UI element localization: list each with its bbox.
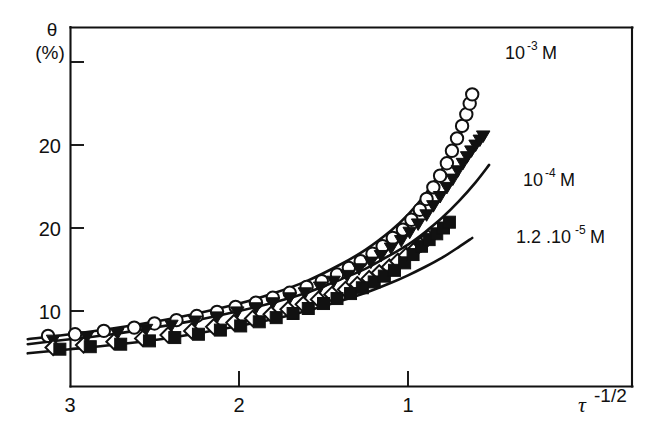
open-circle-point	[446, 145, 458, 157]
curve-label-10-4-sup: -4	[545, 166, 556, 180]
x-tick-label-1: 1	[402, 394, 413, 416]
x-axis-title: τ -1/2	[578, 385, 627, 417]
filled-square-point	[302, 303, 314, 315]
filled-square-point	[356, 282, 368, 294]
filled-square-point	[143, 335, 155, 347]
curve-annotation-10-3: 10 -3 M	[505, 39, 557, 63]
filled-square-point	[318, 298, 330, 310]
chart-plot-area: 20 20 10 10 3 2 1 θ (%) τ -1/2 10 -3 M 1…	[0, 0, 664, 428]
x-axis-ticks	[239, 371, 408, 386]
curve-annotation-1-2-10-5: 1.2 .10 -5 M	[516, 223, 605, 247]
curve-annotation-10-4: 10 -4 M	[523, 166, 575, 190]
curve-label-10-3-base: 10	[505, 43, 525, 63]
y-axis-title-symbol: θ	[47, 19, 58, 40]
y-axis-title-units: (%)	[35, 42, 65, 63]
y-tick-label-10: 10	[39, 301, 61, 323]
open-circle-point	[456, 120, 468, 132]
curve-label-10-3-sup: -3	[527, 39, 538, 53]
filled-square-point	[84, 341, 96, 353]
open-circle-point	[69, 328, 81, 340]
open-circle-point	[98, 325, 110, 337]
curve-label-1-2-10-5-base: 1.2 .10	[516, 227, 571, 247]
filled-square-point	[443, 216, 455, 228]
y-axis-ticks	[70, 62, 84, 311]
chart-figure: 20 20 10 10 3 2 1 θ (%) τ -1/2 10 -3 M 1…	[0, 0, 664, 428]
filled-square-point	[235, 320, 247, 332]
curve-label-1-2-10-5-unit: M	[590, 227, 605, 247]
y-tick-label-20: 20	[39, 218, 61, 240]
open-circle-point	[128, 321, 140, 333]
open-circle-point	[434, 170, 446, 182]
filled-square-point	[345, 288, 357, 300]
filled-square-point	[192, 328, 204, 340]
filled-square-point	[54, 343, 66, 355]
curve-label-1-2-10-5-sup: -5	[575, 223, 586, 237]
filled-square-point	[169, 332, 181, 344]
x-tick-label-2: 2	[233, 394, 244, 416]
filled-square-point	[331, 293, 343, 305]
axis-frame	[71, 27, 633, 387]
curve-label-10-4-unit: M	[560, 170, 575, 190]
x-axis-title-exponent: -1/2	[594, 385, 627, 406]
open-circle-point	[466, 88, 478, 100]
y-tick-label-30: 20	[39, 135, 61, 157]
filled-triangle-down-point	[313, 282, 327, 294]
x-tick-label-3: 3	[64, 394, 75, 416]
x-axis-title-symbol: τ	[578, 392, 587, 417]
curve-label-10-3-unit: M	[542, 43, 557, 63]
filled-square-point	[253, 316, 265, 328]
filled-square-point	[270, 312, 282, 324]
open-circle-point	[441, 157, 453, 169]
filled-square-point	[115, 338, 127, 350]
filled-square-point	[287, 307, 299, 319]
filled-square-point	[214, 324, 226, 336]
data-markers-group	[42, 88, 490, 355]
curve-label-10-4-base: 10	[523, 170, 543, 190]
open-circle-point	[451, 132, 463, 144]
